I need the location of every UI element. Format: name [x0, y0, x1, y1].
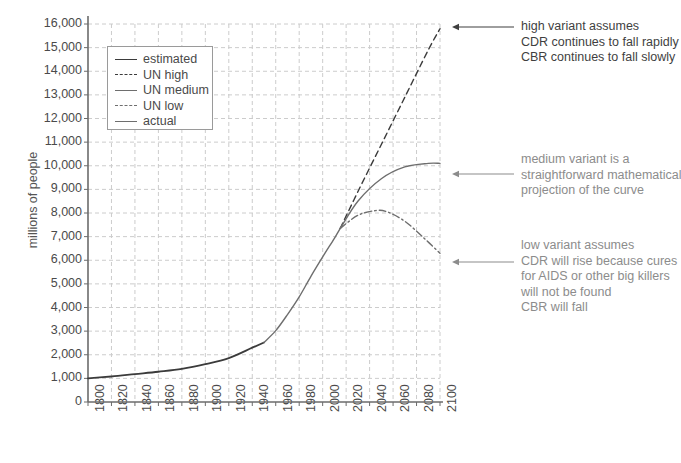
annotation-text-line: will not be found [521, 285, 677, 301]
series-line-un-low [340, 210, 440, 253]
annotation-text-line: projection of the curve [521, 183, 681, 199]
annotation-arrows [452, 24, 514, 265]
annotation-text-line: CDR will rise because cures [521, 254, 677, 270]
legend-item-un-low: UN low [114, 99, 206, 114]
legend-item-un-medium: UN medium [114, 83, 206, 98]
annotation-text-line: straightforward mathematical [521, 168, 681, 184]
annotation-text-line: CDR continues to fall rapidly [521, 35, 679, 51]
annotation-medium-variant: medium variant is a straightforward math… [521, 152, 681, 199]
legend-item-label: actual [143, 115, 176, 128]
legend-item-estimated: estimated [114, 52, 206, 67]
annotation-high-variant: high variant assumes CDR continues to fa… [521, 19, 679, 66]
legend-item-label: estimated [143, 53, 197, 66]
legend-item-label: UN low [143, 100, 183, 113]
legend-line-icon [114, 101, 138, 111]
legend-line-icon [114, 86, 138, 96]
series-line-estimated [88, 342, 264, 378]
annotation-low-variant: low variant assumes CDR will rise becaus… [521, 238, 677, 316]
annotation-text-line: CBR continues to fall slowly [521, 50, 679, 66]
series-line-un-high [340, 29, 440, 229]
annotation-text-line: for AIDS or other big killers [521, 269, 677, 285]
annotation-text-line: CBR will fall [521, 300, 677, 316]
legend-item-un-high: UN high [114, 68, 206, 83]
legend-line-icon [114, 117, 138, 127]
annotation-text-line: medium variant is a [521, 152, 681, 168]
annotation-text-line: high variant assumes [521, 19, 679, 35]
annotation-text-line: low variant assumes [521, 238, 677, 254]
legend-item-actual: actual [114, 114, 206, 129]
legend-line-icon [114, 55, 138, 65]
legend-item-label: UN high [143, 69, 188, 82]
legend: estimated UN high UN medium UN low actua… [107, 46, 213, 130]
legend-item-label: UN medium [143, 84, 209, 97]
legend-line-icon [114, 70, 138, 80]
